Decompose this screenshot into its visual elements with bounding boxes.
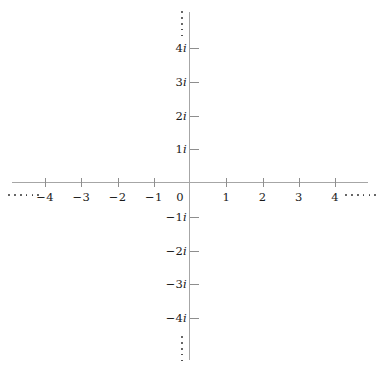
dot [181, 29, 183, 31]
dot [37, 194, 39, 196]
dot [32, 194, 34, 196]
imaginary-tick-label: −1i [166, 210, 187, 224]
tick-number: −2 [166, 244, 183, 258]
imaginary-tick-label: −3i [166, 277, 187, 291]
imaginary-tick-mark [190, 116, 199, 117]
real-tick-mark [226, 178, 227, 187]
real-tick-label: 2 [259, 190, 267, 204]
dot [363, 194, 365, 196]
dot [181, 348, 183, 350]
imaginary-tick-mark [190, 217, 199, 218]
ellipsis-top-icon [181, 11, 183, 36]
imaginary-unit-glyph: i [183, 109, 187, 123]
dot [374, 194, 376, 196]
real-tick-label: 1 [222, 190, 230, 204]
tick-number: −3 [166, 277, 183, 291]
real-tick-label: 3 [295, 190, 303, 204]
imaginary-unit-glyph: i [183, 142, 187, 156]
imaginary-tick-mark [190, 48, 199, 49]
imaginary-tick-label: −2i [166, 244, 187, 258]
tick-number: −1 [166, 210, 183, 224]
dot [181, 23, 183, 25]
real-tick-label: −1 [145, 190, 162, 204]
imaginary-axis-line [189, 12, 190, 360]
imaginary-tick-label: 1i [176, 142, 187, 156]
imaginary-unit-glyph: i [183, 210, 187, 224]
complex-plane-figure: −4−3−2−11234 4i3i2i1i−1i−2i−3i−4i 0 [0, 0, 379, 367]
tick-number: 4 [176, 41, 184, 55]
real-tick-mark [45, 178, 46, 187]
dot [14, 194, 16, 196]
dot [181, 11, 183, 13]
dot [369, 194, 371, 196]
real-tick-mark [118, 178, 119, 187]
real-tick-mark [154, 178, 155, 187]
imaginary-unit-glyph: i [183, 75, 187, 89]
real-tick-label: −3 [73, 190, 90, 204]
real-tick-mark [263, 178, 264, 187]
imaginary-unit-glyph: i [183, 41, 187, 55]
dot [181, 354, 183, 356]
dot [345, 194, 347, 196]
real-tick-label: 4 [331, 190, 339, 204]
dot [181, 360, 183, 362]
dot [351, 194, 353, 196]
ellipsis-left-icon [8, 194, 39, 196]
dot [20, 194, 22, 196]
ellipsis-right-icon [345, 194, 376, 196]
real-tick-mark [81, 178, 82, 187]
tick-number: 1 [176, 142, 184, 156]
dot [181, 17, 183, 19]
imaginary-tick-mark [190, 82, 199, 83]
tick-number: 3 [176, 75, 184, 89]
imaginary-tick-mark [190, 251, 199, 252]
real-tick-label: −4 [36, 190, 53, 204]
imaginary-tick-mark [190, 318, 199, 319]
imaginary-unit-glyph: i [183, 311, 187, 325]
real-tick-mark [299, 178, 300, 187]
imaginary-tick-label: −4i [166, 311, 187, 325]
dot [357, 194, 359, 196]
real-tick-label: −2 [109, 190, 126, 204]
imaginary-unit-glyph: i [183, 244, 187, 258]
tick-number: −4 [166, 311, 183, 325]
tick-number: 2 [176, 109, 184, 123]
imaginary-tick-label: 3i [176, 75, 187, 89]
imaginary-tick-label: 4i [176, 41, 187, 55]
imaginary-tick-mark [190, 149, 199, 150]
dot [8, 194, 10, 196]
ellipsis-bottom-icon [181, 336, 183, 361]
origin-label: 0 [176, 190, 183, 204]
real-tick-mark [335, 178, 336, 187]
dot [181, 336, 183, 338]
imaginary-unit-glyph: i [183, 277, 187, 291]
imaginary-tick-label: 2i [176, 109, 187, 123]
imaginary-tick-mark [190, 284, 199, 285]
dot [26, 194, 28, 196]
dot [181, 35, 183, 37]
dot [181, 342, 183, 344]
